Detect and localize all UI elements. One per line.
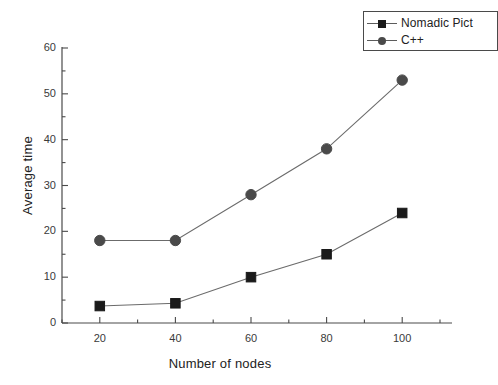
x-tick-label: 100	[387, 332, 417, 344]
x-tick-label: 80	[312, 332, 342, 344]
y-tick-label: 10	[34, 270, 56, 282]
x-tick-label: 60	[236, 332, 266, 344]
y-tick-label: 20	[34, 224, 56, 236]
y-tick-label: 60	[34, 41, 56, 53]
y-tick-label: 40	[34, 133, 56, 145]
y-tick-label: 30	[34, 179, 56, 191]
x-tick-label: 20	[85, 332, 115, 344]
x-axis-title: Number of nodes	[0, 356, 440, 371]
x-tick-label: 40	[160, 332, 190, 344]
y-axis-ticks	[62, 48, 68, 323]
y-tick-label: 50	[34, 87, 56, 99]
y-axis-title: Average time	[20, 116, 35, 236]
y-tick-label: 0	[34, 316, 56, 328]
x-axis-ticks	[62, 317, 440, 323]
series-markers	[95, 75, 408, 311]
